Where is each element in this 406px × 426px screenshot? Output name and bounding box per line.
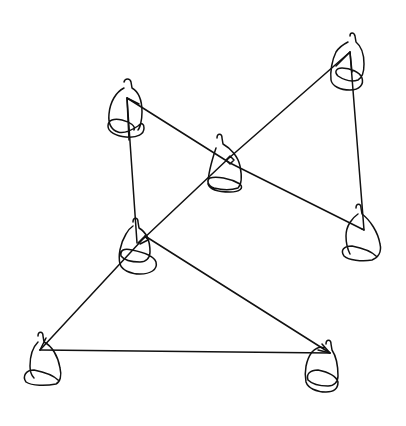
line-f-to-g (40, 350, 330, 353)
line-drawing-canvas (0, 0, 406, 426)
seated-figure-center (208, 134, 242, 192)
line-d-to-g (145, 236, 330, 353)
figures-drawing (0, 0, 406, 426)
seated-figure-b (331, 33, 364, 90)
line-a-to-e (127, 98, 362, 229)
line-b-to-f (40, 52, 350, 350)
seated-figure-d (119, 218, 156, 274)
seated-figure-f (24, 332, 60, 385)
seated-figure-a (108, 79, 144, 140)
seated-figure-e (342, 204, 380, 261)
seated-figure-g (305, 340, 338, 392)
connection-lines (40, 52, 364, 353)
